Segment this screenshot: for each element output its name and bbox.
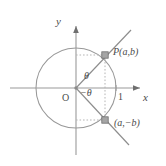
figure-canvas [0, 0, 166, 166]
x-axis-label: x [143, 92, 148, 103]
x-axis-unit-label: 1 [118, 92, 123, 102]
y-axis-label: y [56, 16, 61, 27]
point-label-p-reflected: (a,−b) [114, 118, 140, 128]
origin-marker [74, 86, 77, 89]
x-axis-arrowhead [133, 85, 140, 91]
point-marker-p-reflected [102, 117, 108, 123]
point-marker-p [102, 52, 108, 58]
angle-negative-theta-label: −θ [80, 88, 92, 98]
unit-circle-reflection-figure: y x O 1 θ −θ P(a,b) (a,−b) [0, 0, 166, 166]
y-axis-arrowhead [73, 26, 79, 33]
angle-theta-label: θ [84, 71, 89, 81]
origin-label: O [62, 93, 69, 103]
point-label-p: P(a,b) [113, 47, 138, 57]
